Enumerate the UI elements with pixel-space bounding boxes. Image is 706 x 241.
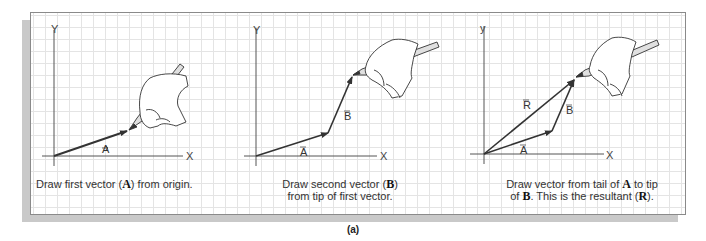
caption-text: Draw first vector ( — [36, 178, 122, 190]
vector-r — [484, 80, 574, 154]
caption-bold-vector: A — [622, 177, 631, 191]
vector-a-label: A — [520, 144, 528, 156]
x-axis-label: X — [186, 150, 194, 162]
vector-r-label: R — [523, 99, 531, 111]
caption-panel-3: Draw vector from tail of A to tip of B. … — [464, 178, 700, 202]
panel-1: Y X A — [42, 23, 194, 166]
caption-line-1: Draw vector from tail of A to tip — [464, 178, 700, 190]
caption-bold-vector: A — [122, 177, 131, 191]
hand-pencil-icon — [353, 39, 439, 98]
hand-pencil-icon — [129, 64, 188, 130]
vector-a — [484, 131, 552, 154]
caption-text: ) from origin. — [131, 178, 193, 190]
caption-text: of — [510, 190, 522, 202]
caption-text: Draw second vector ( — [282, 178, 386, 190]
caption-line-1: Draw second vector (B) — [255, 178, 425, 190]
vector-a — [54, 131, 127, 156]
caption-text: . This is the resultant ( — [530, 190, 638, 202]
y-axis-label: Y — [253, 24, 261, 36]
caption-bold-vector: R — [638, 189, 647, 203]
vector-b-label: B — [344, 110, 351, 122]
vector-a-label: A — [102, 143, 110, 155]
vector-b-label: B — [566, 104, 573, 116]
panel-2: Y X A B — [244, 24, 439, 166]
vector-a-label: A — [300, 146, 308, 158]
vector-a — [256, 133, 328, 156]
vector-diagram: Y X A Y X A B y X — [0, 0, 706, 241]
caption-line-2: from tip of first vector. — [255, 190, 425, 202]
panel-3: y X A B R — [470, 22, 659, 164]
hand-pencil-icon — [576, 37, 659, 96]
caption-bold-vector: B — [386, 177, 394, 191]
caption-panel-1: Draw first vector (A) from origin. — [36, 178, 236, 190]
figure-label: (a) — [0, 224, 706, 235]
x-axis-label: X — [606, 149, 614, 161]
x-axis-label: X — [380, 150, 388, 162]
y-axis-label: y — [480, 22, 486, 34]
vector-b — [328, 77, 352, 133]
caption-panel-2: Draw second vector (B) from tip of first… — [255, 178, 425, 202]
y-axis-label: Y — [51, 23, 59, 35]
caption-text: ) — [394, 178, 398, 190]
caption-text: ). — [647, 190, 654, 202]
vector-label-arrows — [300, 100, 572, 147]
caption-line-2: of B. This is the resultant (R). — [464, 190, 700, 202]
